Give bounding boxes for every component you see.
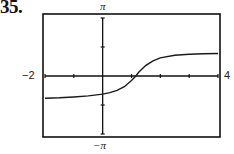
- axes: [45, 18, 218, 134]
- plot-area: [0, 0, 234, 154]
